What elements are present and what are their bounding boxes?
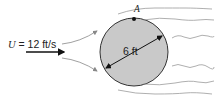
streamline-3 bbox=[172, 35, 214, 38]
streamline-4 bbox=[172, 65, 214, 70]
streamline-2 bbox=[143, 18, 214, 20]
flow-diagram bbox=[0, 0, 221, 100]
velocity-label: U = 12 ft/s bbox=[8, 38, 56, 50]
streamline-lower-approach bbox=[62, 58, 97, 71]
streamline-upper-approach bbox=[62, 31, 97, 44]
streamline-top bbox=[118, 8, 212, 14]
point-a-label: A bbox=[134, 4, 140, 14]
velocity-symbol: U bbox=[8, 39, 16, 50]
diameter-label: 6 ft bbox=[123, 45, 138, 57]
point-a-marker bbox=[132, 17, 136, 21]
streamline-bottom bbox=[118, 90, 212, 94]
velocity-value: = 12 ft/s bbox=[16, 38, 57, 50]
streamline-5 bbox=[143, 81, 214, 85]
